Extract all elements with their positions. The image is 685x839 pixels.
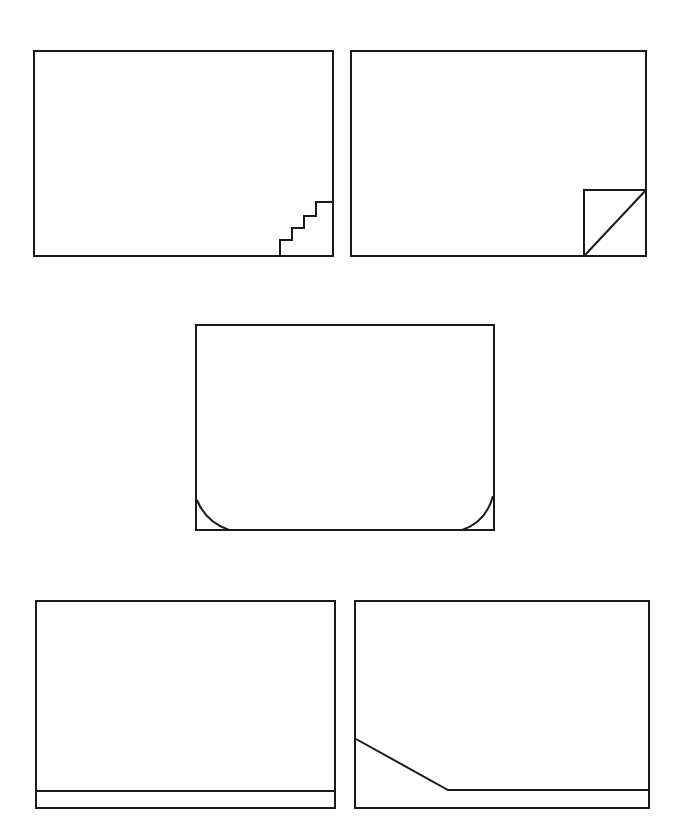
diagram-canvas	[0, 0, 685, 839]
sloped-base-line	[356, 739, 649, 790]
panel-frame	[34, 51, 333, 256]
panel-frame	[196, 325, 494, 530]
right-corner-arc	[462, 496, 493, 530]
panel-base-strip	[36, 601, 335, 808]
panel-stepped-corner	[34, 51, 333, 256]
panel-diagonal-corner	[351, 51, 646, 256]
panel-frame	[355, 601, 649, 808]
panel-rounded-bottom-corners	[196, 325, 494, 530]
left-corner-arc	[197, 500, 229, 530]
panel-frame	[36, 601, 335, 808]
panel-sloped-base	[355, 601, 649, 808]
panel-frame	[351, 51, 646, 256]
staircase-corner	[280, 202, 333, 256]
corner-diagonal	[585, 190, 646, 255]
